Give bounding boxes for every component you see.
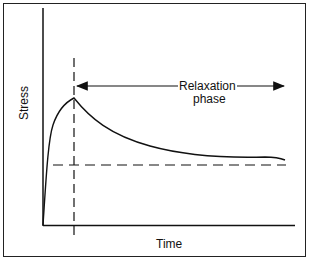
stress-relaxation-diagram bbox=[0, 0, 311, 269]
stress-curve bbox=[43, 98, 285, 225]
x-axis-label: Time bbox=[156, 238, 182, 251]
relaxation-phase-label: phase bbox=[193, 93, 226, 106]
y-axis-label: Stress bbox=[18, 86, 31, 120]
